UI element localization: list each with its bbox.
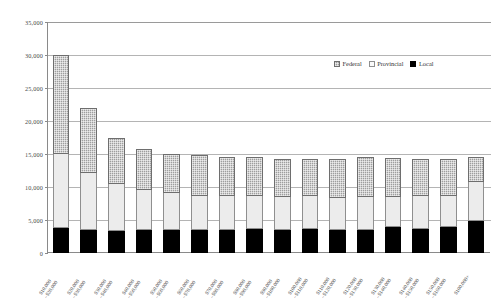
y-tick-label: 0 bbox=[1, 250, 43, 257]
bar-segment-federal bbox=[329, 159, 346, 198]
x-axis-label: $20,000–$30,000 bbox=[65, 276, 87, 299]
bar-column bbox=[163, 154, 180, 253]
bar-segment-provincial bbox=[163, 193, 180, 230]
bar-segment-provincial bbox=[412, 196, 429, 230]
provincial-swatch-icon bbox=[369, 61, 375, 67]
bar-segment-provincial bbox=[191, 196, 208, 230]
bar-segment-local bbox=[357, 230, 374, 253]
bar-column bbox=[219, 157, 236, 253]
legend-item-local: Local bbox=[410, 60, 433, 67]
bar-column bbox=[302, 159, 319, 253]
y-tick-label: 20,000 bbox=[1, 118, 43, 125]
bar-column bbox=[108, 138, 125, 253]
bar-segment-provincial bbox=[468, 182, 485, 222]
bar-segment-local bbox=[329, 230, 346, 253]
bar-segment-federal bbox=[136, 149, 153, 190]
y-tick-label: 10,000 bbox=[1, 184, 43, 191]
legend-item-provincial: Provincial bbox=[369, 60, 404, 67]
bar-segment-federal bbox=[468, 157, 485, 181]
x-axis-label: $150,000–$160,000 bbox=[425, 274, 448, 300]
bar-segment-federal bbox=[246, 157, 263, 195]
chart-legend: Federal Provincial Local bbox=[334, 60, 434, 67]
y-tick-label: 35,000 bbox=[1, 19, 43, 26]
bar-segment-local bbox=[219, 230, 236, 253]
legend-label-provincial: Provincial bbox=[377, 60, 403, 67]
y-tick-label: 15,000 bbox=[1, 151, 43, 158]
bar-column bbox=[385, 158, 402, 253]
bar-segment-federal bbox=[191, 155, 208, 195]
bar-segment-provincial bbox=[440, 196, 457, 227]
bar-column bbox=[357, 157, 374, 253]
bar-segment-local bbox=[385, 227, 402, 253]
legend-label-local: Local bbox=[419, 60, 434, 67]
bar-segment-federal bbox=[163, 154, 180, 193]
bar-column bbox=[274, 159, 291, 253]
bar-segment-local bbox=[274, 230, 291, 253]
legend-item-federal: Federal bbox=[334, 60, 362, 67]
bar-column bbox=[412, 159, 429, 253]
bars-layer bbox=[47, 22, 490, 253]
bar-segment-local bbox=[302, 229, 319, 253]
x-axis-label: $70,000–$80,000 bbox=[203, 276, 225, 299]
legend-label-federal: Federal bbox=[343, 60, 362, 67]
x-axis-label: $90,000–$100,000 bbox=[259, 274, 282, 300]
y-tick-mark bbox=[45, 253, 48, 254]
x-axis-label: $40,000–$50,000 bbox=[120, 276, 142, 299]
bar-segment-local bbox=[246, 229, 263, 253]
y-tick-label: 30,000 bbox=[1, 52, 43, 59]
x-axis-labels: $10,000–$20,000$20,000–$30,000$30,000–$4… bbox=[47, 255, 490, 306]
bar-segment-provincial bbox=[385, 197, 402, 227]
bar-column bbox=[80, 108, 97, 253]
x-axis-label: $130,000–$140,000 bbox=[369, 274, 392, 300]
x-axis-label: $30,000–$40,000 bbox=[93, 276, 115, 299]
bar-segment-federal bbox=[274, 159, 291, 197]
bar-segment-local bbox=[163, 230, 180, 253]
x-axis-label: $10,000–$20,000 bbox=[37, 276, 59, 299]
bar-segment-local bbox=[412, 229, 429, 253]
bar-segment-local bbox=[80, 230, 97, 253]
bar-segment-federal bbox=[53, 55, 70, 154]
bar-column bbox=[53, 55, 70, 253]
bar-column bbox=[136, 149, 153, 253]
bar-segment-local bbox=[136, 230, 153, 253]
bar-segment-local bbox=[53, 228, 70, 253]
x-axis-label: $80,000–$90,000 bbox=[231, 276, 253, 299]
x-axis-label: $120,000–$130,000 bbox=[342, 274, 365, 300]
bar-segment-provincial bbox=[302, 196, 319, 229]
bar-segment-provincial bbox=[108, 184, 125, 231]
bar-segment-federal bbox=[302, 159, 319, 196]
bar-segment-federal bbox=[412, 159, 429, 196]
x-axis-label: $50,000–$60,000 bbox=[148, 276, 170, 299]
bar-segment-federal bbox=[440, 159, 457, 196]
bar-segment-provincial bbox=[357, 197, 374, 230]
bar-segment-provincial bbox=[274, 197, 291, 230]
stacked-bar-chart: 05,00010,00015,00020,00025,00030,00035,0… bbox=[0, 0, 495, 306]
bar-segment-provincial bbox=[80, 173, 97, 230]
x-axis-label: $60,000–$70,000 bbox=[176, 276, 198, 299]
bar-column bbox=[246, 157, 263, 253]
bar-segment-federal bbox=[219, 157, 236, 196]
x-axis-label: $100,000+ bbox=[453, 273, 471, 295]
bar-segment-provincial bbox=[136, 190, 153, 230]
bar-segment-federal bbox=[108, 138, 125, 184]
bar-segment-provincial bbox=[219, 196, 236, 230]
bar-segment-federal bbox=[357, 157, 374, 197]
bar-segment-provincial bbox=[329, 198, 346, 230]
bar-segment-provincial bbox=[246, 196, 263, 230]
x-axis-label: $100,000–$110,000 bbox=[286, 274, 309, 299]
federal-swatch-icon bbox=[334, 61, 340, 67]
y-tick-label: 25,000 bbox=[1, 85, 43, 92]
bar-segment-local bbox=[108, 231, 125, 253]
x-axis-label: $140,000–$150,000 bbox=[397, 274, 420, 300]
bar-column bbox=[329, 159, 346, 253]
bar-segment-local bbox=[468, 221, 485, 253]
x-axis-label: $110,000–$120,000 bbox=[314, 274, 337, 300]
bar-column bbox=[440, 159, 457, 253]
bar-segment-federal bbox=[80, 108, 97, 172]
local-swatch-icon bbox=[410, 61, 416, 67]
bar-segment-federal bbox=[385, 158, 402, 197]
bar-column bbox=[468, 157, 485, 253]
bar-column bbox=[191, 155, 208, 253]
bar-segment-local bbox=[191, 230, 208, 253]
bar-segment-local bbox=[440, 227, 457, 253]
